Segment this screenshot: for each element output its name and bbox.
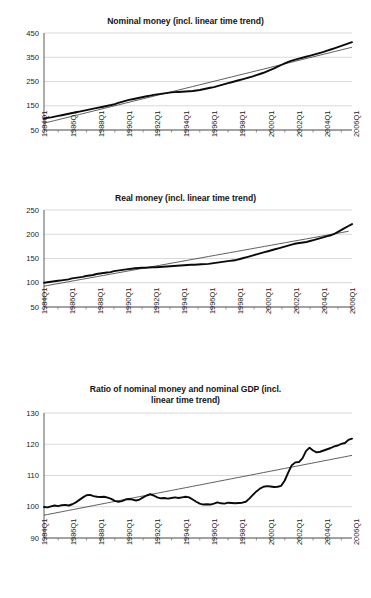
y-axis-tick-label: 100: [26, 502, 39, 511]
x-axis-tick-label: 1994Q1: [182, 110, 191, 136]
chart-panel-nominal-money: Nominal money (incl. linear time trend) …: [0, 0, 371, 185]
y-axis-tick-label: 200: [26, 229, 39, 238]
x-axis-tick-label: 1994Q1: [182, 519, 191, 545]
y-axis-tick-label: 120: [26, 440, 39, 449]
chart-title-ratio-line1: Ratio of nominal money and nominal GDP (…: [0, 375, 371, 395]
y-axis-tick-label: 50: [31, 302, 39, 311]
x-axis-tick-label: 1992Q1: [152, 287, 161, 313]
x-axis-tick-label: 1996Q1: [210, 519, 219, 545]
y-axis-tick-label: 450: [26, 28, 39, 37]
chart-panel-real-money: Real money (incl. linear time trend) 501…: [0, 185, 371, 375]
x-axis-tick-label: 1984Q1: [40, 519, 49, 545]
x-axis-tick-label: 1992Q1: [153, 110, 162, 136]
x-axis-tick-label: 2004Q1: [320, 287, 329, 313]
plot-area-nominal-money: 501502503504501984Q11986Q11988Q11990Q119…: [0, 27, 371, 182]
x-axis-tick-label: 1988Q1: [96, 287, 105, 313]
trend-line-series: [44, 47, 352, 123]
chart-title-real-money: Real money (incl. linear time trend): [0, 185, 371, 204]
x-axis-tick-label: 1986Q1: [68, 287, 77, 313]
x-axis-tick-label: 2004Q1: [323, 110, 332, 136]
y-axis-tick-label: 250: [26, 77, 39, 86]
x-axis-tick-label: 2002Q1: [295, 110, 304, 136]
x-axis-tick-label: 1998Q1: [238, 519, 247, 545]
x-axis-tick-label: 1990Q1: [124, 287, 133, 313]
chart-panel-ratio: Ratio of nominal money and nominal GDP (…: [0, 375, 371, 598]
x-axis-tick-label: 1988Q1: [97, 519, 106, 545]
x-axis-tick-label: 1998Q1: [238, 110, 247, 136]
x-axis-tick-label: 1986Q1: [69, 519, 78, 545]
x-axis-tick-label: 1996Q1: [210, 110, 219, 136]
x-axis-tick-label: 2002Q1: [295, 519, 304, 545]
y-axis-tick-label: 110: [27, 471, 39, 480]
y-axis-tick-label: 250: [26, 205, 39, 214]
x-axis-tick-label: 2006Q1: [352, 519, 361, 545]
x-axis-tick-label: 1984Q1: [40, 110, 49, 136]
x-axis-tick-label: 2004Q1: [323, 519, 332, 545]
x-axis-tick-label: 1992Q1: [153, 519, 162, 545]
x-axis-tick-label: 2002Q1: [292, 287, 301, 313]
x-axis-tick-label: 1984Q1: [40, 287, 49, 313]
x-axis-tick-label: 1988Q1: [97, 110, 106, 136]
x-axis-tick-label: 1994Q1: [180, 287, 189, 313]
plot-area-ratio: 901001101201301984Q11986Q11988Q11990Q119…: [0, 405, 371, 593]
trend-line-series: [44, 455, 352, 515]
data-line-series: [44, 224, 352, 283]
chart-title-ratio-line2: linear time trend): [0, 395, 371, 406]
x-axis-tick-label: 2006Q1: [352, 110, 361, 136]
x-axis-tick-label: 2000Q1: [267, 110, 276, 136]
x-axis-tick-label: 2000Q1: [267, 519, 276, 545]
x-axis-tick-label: 1986Q1: [69, 110, 78, 136]
data-line-series: [44, 42, 352, 118]
figure-page: Nominal money (incl. linear time trend) …: [0, 0, 371, 598]
y-axis-tick-label: 150: [26, 254, 39, 263]
y-axis-tick-label: 350: [26, 52, 39, 61]
x-axis-tick-label: 1990Q1: [125, 110, 134, 136]
chart-svg-nominal-money: 501502503504501984Q11986Q11988Q11990Q119…: [0, 27, 371, 182]
y-axis-tick-label: 130: [26, 409, 39, 418]
x-axis-tick-label: 1996Q1: [208, 287, 217, 313]
y-axis-tick-label: 50: [31, 125, 39, 134]
x-axis-tick-label: 1998Q1: [236, 287, 245, 313]
y-axis-tick-label: 90: [31, 534, 39, 543]
x-axis-tick-label: 1990Q1: [125, 519, 134, 545]
plot-area-real-money: 501001502002501984Q11986Q11988Q11990Q119…: [0, 204, 371, 362]
chart-svg-real-money: 501001502002501984Q11986Q11988Q11990Q119…: [0, 204, 371, 362]
y-axis-tick-label: 150: [26, 101, 39, 110]
x-axis-tick-label: 2006Q1: [348, 287, 357, 313]
chart-title-nominal-money: Nominal money (incl. linear time trend): [0, 0, 371, 27]
chart-svg-ratio: 901001101201301984Q11986Q11988Q11990Q119…: [0, 405, 371, 593]
data-line-series: [44, 439, 352, 508]
x-axis-tick-label: 2000Q1: [264, 287, 273, 313]
y-axis-tick-label: 100: [26, 278, 39, 287]
